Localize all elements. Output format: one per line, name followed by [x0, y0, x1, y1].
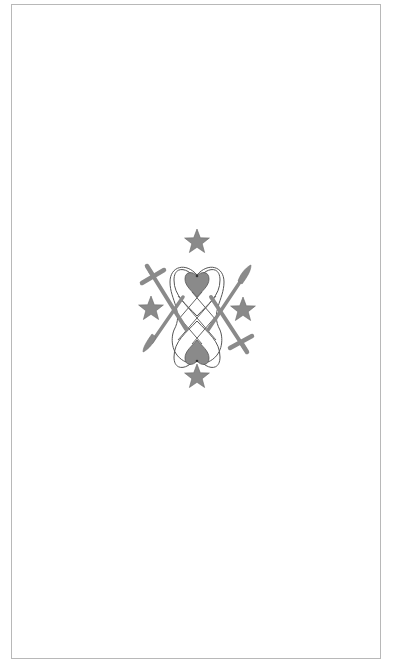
- star-top-icon: [185, 229, 210, 253]
- star-bottom-icon: [185, 364, 210, 388]
- star-left-icon: [139, 296, 164, 320]
- star-right-icon: [231, 297, 256, 321]
- diamond-lattice: [178, 292, 216, 344]
- veve-symbol: [0, 0, 395, 672]
